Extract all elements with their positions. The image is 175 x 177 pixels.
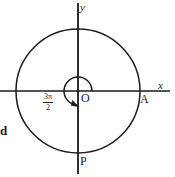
x-axis-label: x xyxy=(158,80,163,91)
angle-numerator: 3π xyxy=(43,93,53,103)
y-axis-label: y xyxy=(80,2,85,13)
angle-denominator: 2 xyxy=(43,103,53,112)
margin-text-fragment: d xyxy=(0,124,7,137)
figure-canvas: y x O A P d 3π 2 xyxy=(0,0,175,177)
origin-label: O xyxy=(81,92,90,104)
angle-measure-label: 3π 2 xyxy=(43,93,53,112)
point-label-p: P xyxy=(80,155,87,167)
point-label-a: A xyxy=(140,93,149,105)
diagram-svg xyxy=(0,0,175,177)
